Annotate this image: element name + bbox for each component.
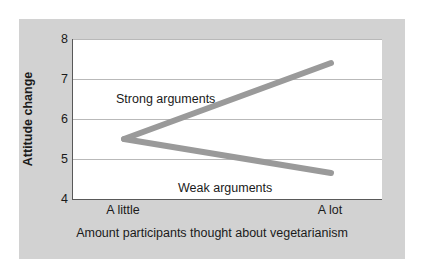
figure-canvas: Attitude change 8 7 6 5 4 Strong argumen…: [0, 0, 424, 277]
x-axis-tick-labels: A little A lot: [72, 203, 381, 221]
y-tick-label-6: 6: [50, 113, 68, 126]
y-axis-title-container: Attitude change: [18, 39, 38, 199]
x-tick-label-a-little: A little: [106, 203, 139, 217]
annotation-weak-arguments: Weak arguments: [178, 181, 272, 195]
series-line-weak-arguments: [124, 139, 331, 173]
y-axis-tick-labels: 8 7 6 5 4: [48, 39, 68, 199]
series-layer: [73, 39, 382, 199]
y-tick-label-7: 7: [50, 73, 68, 86]
y-axis-title: Attitude change: [21, 72, 35, 166]
y-tick-label-4: 4: [50, 193, 68, 206]
x-tick-label-a-lot: A lot: [318, 203, 342, 217]
plot-area: Strong arguments Weak arguments: [72, 39, 382, 200]
y-tick-label-5: 5: [50, 153, 68, 166]
annotation-strong-arguments: Strong arguments: [116, 92, 215, 106]
y-tick-label-8: 8: [50, 33, 68, 46]
x-axis-title: Amount participants thought about vegeta…: [19, 226, 405, 240]
